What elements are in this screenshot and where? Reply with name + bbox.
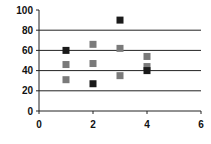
x-tick-label: 2 xyxy=(90,119,96,130)
data-point-gray xyxy=(63,61,70,68)
data-point-gray xyxy=(90,60,97,67)
data-point-dark xyxy=(144,67,151,74)
data-point-gray xyxy=(90,41,97,48)
x-tick-label: 6 xyxy=(198,119,204,130)
y-tick-label: 80 xyxy=(22,25,34,36)
y-tick-label: 60 xyxy=(22,45,34,56)
x-tick-label: 0 xyxy=(36,119,42,130)
data-point-gray xyxy=(63,76,70,83)
data-point-gray xyxy=(117,45,124,52)
data-point-dark xyxy=(90,80,97,87)
y-tick-label: 40 xyxy=(22,65,34,76)
y-tick-label: 20 xyxy=(22,85,34,96)
data-point-gray xyxy=(117,72,124,79)
scatter-chart: 0204060801000246 xyxy=(0,0,211,144)
data-point-dark xyxy=(63,47,70,54)
x-tick-label: 4 xyxy=(144,119,150,130)
data-point-gray xyxy=(144,53,151,60)
data-point-dark xyxy=(117,17,124,24)
y-tick-label: 100 xyxy=(16,5,33,16)
y-tick-label: 0 xyxy=(27,106,33,117)
